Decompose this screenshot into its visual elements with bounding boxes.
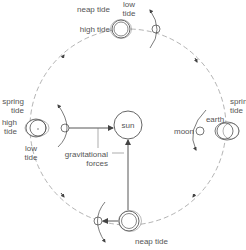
gravitational-label: gravitational [65, 150, 108, 159]
moon-top [152, 25, 160, 33]
moon-left [61, 124, 69, 132]
earth-bottom [119, 211, 139, 231]
sun-label: sun [122, 121, 135, 130]
earth-right [215, 122, 239, 140]
neap-tide-top: neap tide low tide high tide [77, 0, 160, 48]
spring-tide-right-label-2: tide [230, 106, 243, 115]
neap-tide-top-label: neap tide [77, 5, 110, 14]
forces-label: forces [86, 159, 108, 168]
neap-tide-bottom: neap tide [94, 202, 168, 246]
low-tide-top-label-1: low [123, 0, 135, 9]
sun: sun [114, 111, 142, 139]
low-tide-left-label-1: low [25, 144, 37, 153]
neap-tide-bottom-label: neap tide [135, 237, 168, 246]
spring-tide-right-label-1: spring [230, 97, 246, 106]
high-tide-top-label: high tide [80, 25, 111, 34]
spring-tide-left: spring tide high tide low tide [2, 97, 69, 162]
tides-diagram: sun gravitational forces neap tide low t… [0, 0, 246, 250]
gravitational-forces: gravitational forces [65, 128, 128, 210]
high-tide-left-label-2: tide [4, 127, 17, 136]
spring-tide-right: moon earth spring tide [174, 97, 246, 150]
earth-top [112, 20, 130, 38]
earth-label: earth [206, 115, 224, 124]
spring-tide-left-label-1: spring [2, 97, 24, 106]
low-tide-left-label-2: tide [25, 153, 38, 162]
low-tide-top-label-2: tide [123, 9, 136, 18]
moon-label: moon [174, 127, 194, 136]
high-tide-left-label-1: high [2, 118, 17, 127]
moon-right [196, 127, 204, 135]
spring-tide-left-label-2: tide [11, 106, 24, 115]
